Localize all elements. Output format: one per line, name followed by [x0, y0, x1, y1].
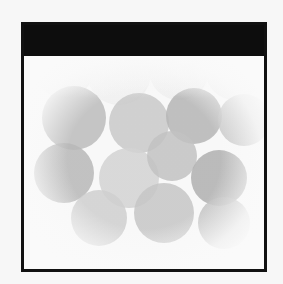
image-frame	[21, 22, 267, 272]
header-bar	[24, 25, 264, 56]
vignette	[24, 58, 264, 269]
bokeh-image	[24, 58, 264, 269]
